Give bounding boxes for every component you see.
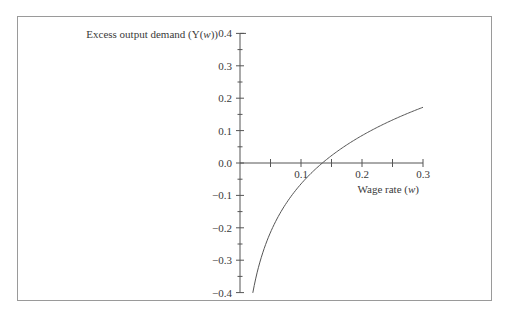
y-axis-title: Excess output demand (Y(w)) [86, 28, 218, 41]
x-tick-label: 0.2 [355, 168, 369, 180]
chart-plot: 0.40.30.20.10.0−0.1−0.2−0.3−0.4 0.10.20.… [0, 0, 511, 324]
x-tick-label: 0.3 [416, 168, 430, 180]
y-tick-label: −0.2 [212, 222, 232, 234]
y-tick-label: −0.3 [212, 254, 232, 266]
y-tick-label: −0.1 [212, 189, 232, 201]
x-axis-title: Wage rate (w) [358, 183, 420, 196]
y-tick-label: 0.2 [218, 92, 232, 104]
x-axis: 0.10.20.3 [240, 159, 430, 180]
y-tick-label: 0.3 [218, 60, 232, 72]
y-tick-label: 0.0 [218, 157, 232, 169]
y-tick-label: 0.1 [218, 125, 232, 137]
y-tick-label: 0.4 [218, 27, 232, 39]
excess-demand-curve [253, 107, 423, 293]
y-tick-label: −0.4 [212, 287, 232, 299]
